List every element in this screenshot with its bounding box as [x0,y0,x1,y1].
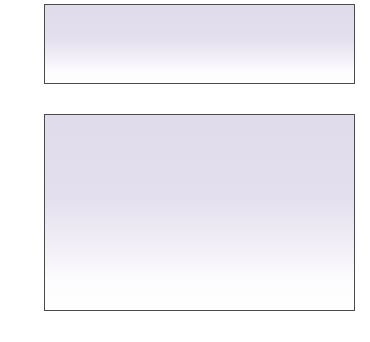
chart-panel-lead [0,0,370,110]
series-layer-lead [0,0,370,110]
chart-panel-criteria-pollutants [0,110,370,342]
series-layer-criteria-pollutants [0,110,370,342]
emissions-figure [0,0,370,342]
